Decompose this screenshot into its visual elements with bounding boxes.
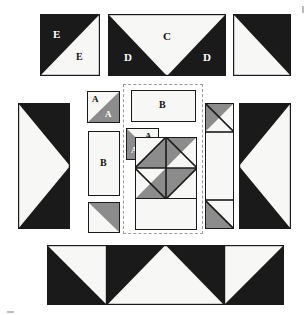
unit-right-geese-vertical (239, 103, 291, 229)
unit-b-rect-vertical (88, 131, 120, 196)
unit-bottom-right-hst (224, 245, 284, 305)
unit-bottom-center-geese (107, 245, 224, 305)
page-mark-top-right (302, 6, 304, 13)
unit-pinwheel (135, 137, 197, 199)
unit-bottom-left-hst (47, 245, 107, 305)
page-mark-bottom-left (7, 311, 14, 313)
unit-a-upper (87, 91, 120, 123)
unit-small-medium-hst (88, 202, 120, 233)
unit-b-rect-horizontal (131, 90, 196, 122)
unit-top-right-hst (233, 14, 291, 76)
unit-top-center-cd-geese (108, 14, 226, 76)
unit-top-left-e-square (40, 14, 100, 76)
quilt-diagram: E E C D D A A (0, 0, 308, 315)
unit-left-geese-vertical (18, 103, 70, 229)
unit-narrow-strip-right (205, 103, 234, 229)
